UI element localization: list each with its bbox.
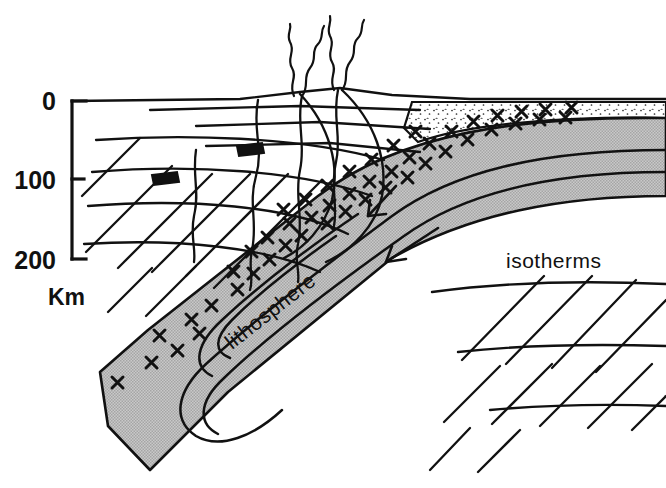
axis-tick-0: 0 bbox=[42, 87, 56, 115]
hatching-right bbox=[430, 276, 666, 472]
axis-unit-label: Km bbox=[48, 284, 85, 310]
volcano-plumes bbox=[289, 16, 364, 96]
axis-tick-200: 200 bbox=[14, 246, 56, 274]
magma-body-lower bbox=[152, 172, 179, 185]
isotherms-label: isotherms bbox=[506, 249, 602, 272]
depth-axis bbox=[72, 101, 86, 259]
axis-tick-100: 100 bbox=[14, 166, 56, 194]
cross-section-canvas: 0 100 200 Km bbox=[0, 0, 666, 488]
ground-surface bbox=[72, 88, 666, 101]
isotherm-contours-right bbox=[432, 282, 666, 410]
magma-body-upper bbox=[237, 143, 264, 156]
subduction-zone-figure: 0 100 200 Km bbox=[0, 0, 666, 488]
